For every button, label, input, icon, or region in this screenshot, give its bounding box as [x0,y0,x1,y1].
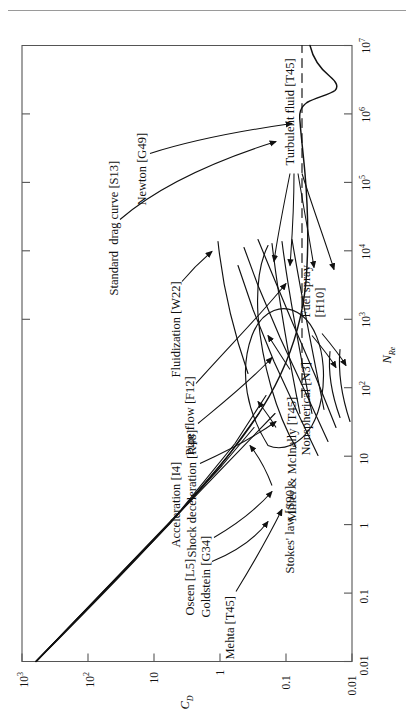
y-axis-title: CD [178,695,195,709]
y-tick-label-0: 0.01 [346,675,358,695]
annotation-mehta: Mehta [T45] [224,595,238,659]
annotation-newton: Newton [G49] [136,132,150,205]
x-tick-label-0: 0.01 [358,655,370,675]
figure-page: 0.01 0.1 1 10 102 103 104 105 106 107 0.… [0,0,414,713]
x-tick-label-2: 1 [358,522,370,528]
curve-fuel-spray-1 [329,351,340,417]
annotation-turbulent-fluid: Turbulent fluid [T45] [284,58,298,165]
x-tick-label-6: 104 [358,244,372,260]
x-tick-label-7: 105 [358,175,372,191]
curve-fluidization [218,241,248,373]
x-tick-label-8: 106 [358,107,372,123]
y-tick-label-3: 10 [148,672,160,684]
rotated-figure-canvas: 0.01 0.1 1 10 102 103 104 105 106 107 0.… [0,0,414,713]
x-tick-label-5: 103 [358,312,372,328]
x-tick-label-4: 102 [358,381,372,397]
x-axis-ticks-top [22,113,30,318]
y-tick-label-2: 1 [214,669,226,675]
leader-lines [120,123,346,591]
x-tick-label-3: 10 [358,453,370,465]
annotation-standard-drag-curve: Standard drag curve [S13] [108,160,122,295]
x-tick-label-9: 107 [358,38,372,54]
annotation-fuel-spray: Fuel spray[H10] [300,237,327,317]
y-axis-ticks [22,653,352,661]
x-axis-title: NRe [380,346,397,363]
x-tick-label-1: 0.1 [358,589,370,603]
x-axis-ticks [344,45,352,661]
annotation-fluidization: Fluidization [W22] [170,281,184,377]
annotation-acceleration: Acceleration [I4] [170,461,184,547]
annotation-nonspherical: Nonspherical [N3] [300,362,314,455]
drag-coefficient-chart: 0.01 0.1 1 10 102 103 104 105 106 107 0.… [0,0,414,713]
y-tick-label-5: 103 [16,672,30,688]
annotation-oseen: Oseen [L5] [184,558,198,615]
y-tick-label-1: 0.1 [280,675,292,689]
annotation-shock-deceleration: Shock deceleration [R48] [186,429,200,557]
curve-fuel-spray-2 [339,349,350,421]
annotation-miller-mcinally: Miller & McInally [T45] [286,396,300,521]
annotation-goldstein: Goldstein [G34] [200,535,214,617]
y-tick-label-4: 102 [82,672,96,688]
curve-oseen [36,427,254,661]
